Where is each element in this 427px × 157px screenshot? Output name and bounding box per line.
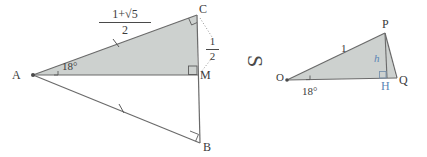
vertex-label-Q: Q bbox=[399, 74, 408, 86]
vertex-dot-O bbox=[285, 78, 289, 82]
segment-label-h: h bbox=[374, 53, 380, 64]
side-label-AC-denominator: 2 bbox=[99, 24, 151, 37]
vertex-label-C: C bbox=[199, 3, 207, 15]
vertex-label-A: A bbox=[12, 69, 21, 81]
angle-label-O: 18° bbox=[302, 86, 317, 97]
segment-label-CM: 1 2 bbox=[206, 36, 219, 62]
separator-glyph-s: S bbox=[242, 55, 268, 67]
segment-label-CM-denominator: 2 bbox=[206, 51, 219, 63]
vertex-label-H: H bbox=[381, 80, 390, 92]
side-label-AC: 1+√5 2 bbox=[99, 8, 151, 36]
geometry-figure-canvas: A C B M 18° 1+√5 2 1 2 S O P Q H 18° 1 h bbox=[0, 0, 427, 157]
vertex-label-M: M bbox=[200, 69, 211, 81]
vertex-dot-A bbox=[31, 73, 35, 77]
figure-vector-layer bbox=[0, 0, 427, 157]
vertex-label-P: P bbox=[382, 18, 389, 30]
side-label-OP: 1 bbox=[341, 43, 347, 54]
side-label-AC-numerator: 1+√5 bbox=[99, 8, 151, 21]
segment-label-CM-numerator: 1 bbox=[206, 36, 219, 48]
angle-label-A: 18° bbox=[62, 61, 77, 72]
vertex-label-B: B bbox=[203, 141, 211, 153]
segment-AB bbox=[33, 75, 200, 143]
vertex-label-O: O bbox=[276, 72, 284, 83]
